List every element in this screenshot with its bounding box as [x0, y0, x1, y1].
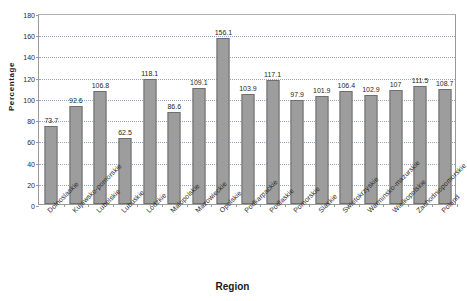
y-tick-label: 100: [23, 96, 35, 103]
x-tick-mark: [309, 204, 310, 207]
y-tick-label: 0: [31, 203, 35, 210]
y-tick-label: 120: [23, 75, 35, 82]
y-tick-label: 40: [27, 160, 35, 167]
bar[interactable]: [340, 91, 353, 204]
bar-value-label: 117.1: [264, 71, 281, 78]
x-tick-mark: [211, 204, 212, 207]
bar-slot[interactable]: 101.9: [309, 15, 334, 204]
x-tick-mark: [260, 204, 261, 207]
bar[interactable]: [217, 38, 230, 204]
bar[interactable]: [143, 79, 156, 204]
bar-value-label: 106.4: [338, 82, 356, 89]
y-tick-label: 180: [23, 12, 35, 19]
bar-slot[interactable]: 103.9: [236, 15, 261, 204]
bar-slot[interactable]: 109.1: [187, 15, 212, 204]
x-tick-mark: [432, 204, 433, 207]
x-tick-mark: [359, 204, 360, 207]
bar-value-label: 102.9: [362, 86, 380, 93]
x-tick-mark: [162, 204, 163, 207]
bar-slot[interactable]: 73.7: [39, 15, 64, 204]
bar-slot[interactable]: 118.1: [137, 15, 162, 204]
x-axis-title: Region: [0, 281, 465, 292]
bar[interactable]: [241, 94, 254, 204]
bar-value-label: 97.9: [290, 91, 304, 98]
bar-value-label: 86.6: [167, 103, 181, 110]
bar-value-label: 101.9: [313, 87, 331, 94]
x-tick-mark: [285, 204, 286, 207]
y-tick-mark: [36, 206, 39, 207]
bar-value-label: 118.1: [141, 70, 158, 77]
bar-value-label: 109.1: [190, 79, 208, 86]
bar[interactable]: [119, 138, 132, 204]
bar[interactable]: [45, 126, 58, 204]
bar-slot[interactable]: 102.9: [359, 15, 384, 204]
bar-slot[interactable]: 111.5: [408, 15, 433, 204]
bar-value-label: 92.6: [69, 97, 83, 104]
x-tick-mark: [457, 204, 458, 207]
bar-value-label: 107: [390, 81, 402, 88]
y-axis-title: Percentage: [7, 47, 16, 127]
x-tick-mark: [113, 204, 114, 207]
bar-slot[interactable]: 156.1: [211, 15, 236, 204]
bar-slot[interactable]: 86.6: [162, 15, 187, 204]
y-tick-label: 60: [27, 139, 35, 146]
bar[interactable]: [168, 112, 181, 204]
bar-slot[interactable]: 117.1: [260, 15, 285, 204]
plot-area: 020406080100120140160180 73.792.6106.862…: [38, 14, 456, 205]
bar-value-label: 108.7: [436, 80, 454, 87]
x-tick-mark: [187, 204, 188, 207]
bar-value-label: 73.7: [44, 117, 58, 124]
x-tick-mark: [383, 204, 384, 207]
bar-slot[interactable]: 106.4: [334, 15, 359, 204]
x-tick-mark: [137, 204, 138, 207]
x-tick-mark: [88, 204, 89, 207]
x-tick-mark: [334, 204, 335, 207]
bars-layer: 73.792.6106.862.5118.186.6109.1156.1103.…: [39, 15, 455, 204]
x-tick-mark: [236, 204, 237, 207]
y-tick-label: 140: [23, 54, 35, 61]
bar-slot[interactable]: 92.6: [64, 15, 89, 204]
y-tick-label: 160: [23, 33, 35, 40]
x-tick-mark: [64, 204, 65, 207]
y-tick-label: 20: [27, 181, 35, 188]
bar-value-label: 156.1: [215, 29, 233, 36]
bar-value-label: 111.5: [412, 77, 428, 84]
bar-slot[interactable]: 97.9: [285, 15, 310, 204]
bar-value-label: 106.8: [92, 82, 110, 89]
x-tick-mark: [408, 204, 409, 207]
bar-slot[interactable]: 62.5: [113, 15, 138, 204]
bar-value-label: 103.9: [239, 85, 257, 92]
bar-value-label: 62.5: [118, 129, 132, 136]
y-tick-label: 80: [27, 118, 35, 125]
